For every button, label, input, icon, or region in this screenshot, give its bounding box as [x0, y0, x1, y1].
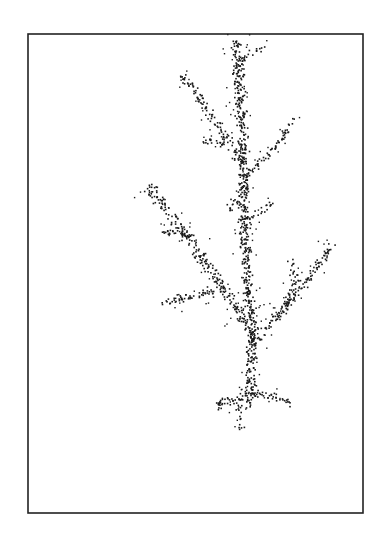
aggregate-particles: [134, 34, 336, 430]
dla-cluster-figure: [0, 0, 386, 537]
figure-frame: [28, 34, 363, 513]
